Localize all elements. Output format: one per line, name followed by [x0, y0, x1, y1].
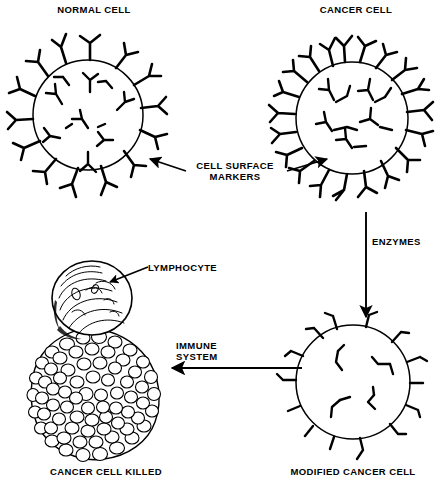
- lymphocyte: [52, 261, 132, 339]
- label-normal-cell: NORMAL CELL: [0, 4, 188, 15]
- label-enzymes: ENZYMES: [372, 236, 442, 247]
- diagram-canvas: NORMAL CELL CANCER CELL CELL SURFACE MAR…: [0, 0, 445, 496]
- label-immune-system: IMMUNE SYSTEM: [176, 340, 266, 362]
- label-cell-surface-markers: CELL SURFACE MARKERS: [176, 160, 294, 182]
- label-modified-cancer-cell: MODIFIED CANCER CELL: [262, 466, 444, 477]
- label-cancer-cell-killed: CANCER CELL KILLED: [0, 466, 212, 477]
- cancer-cell-inner-markers: [316, 79, 392, 148]
- label-lymphocyte: LYMPHOCYTE: [148, 262, 248, 273]
- cancer-cell-killed: [27, 329, 161, 462]
- modified-cancer-cell: [277, 312, 427, 459]
- cancer-cell-membrane: [296, 62, 408, 174]
- immune-response-diagram: [0, 0, 445, 496]
- modified-cancer-cell-outer-markers: [277, 312, 427, 459]
- normal-cell: [7, 34, 167, 197]
- label-cancer-cell: CANCER CELL: [268, 4, 444, 15]
- modified-cancer-cell-inner-markers: [331, 345, 393, 417]
- normal-cell-inner-markers: [43, 73, 134, 172]
